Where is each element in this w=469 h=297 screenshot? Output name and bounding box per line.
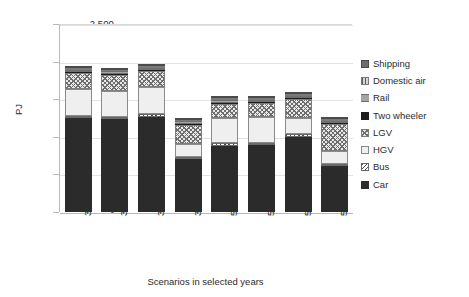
bar-segment-domestic-air[interactable]	[285, 94, 312, 96]
bar-segment-shipping[interactable]	[285, 92, 312, 94]
legend-item-label: Bus	[373, 162, 389, 172]
bar-segment-rail[interactable]	[321, 121, 348, 123]
bar-segment-domestic-air[interactable]	[138, 66, 165, 68]
gridline	[60, 63, 353, 64]
chart-figure: PJ -5001,0001,5002,0002,500 35-LC35-LC-E…	[0, 0, 469, 297]
bar-segment-hgv[interactable]	[138, 87, 165, 114]
x-axis-tick-label: 50-LC-LC	[302, 175, 313, 216]
bar-segment-bus[interactable]	[138, 114, 165, 117]
bar-segment-lgv[interactable]	[248, 103, 275, 117]
legend-swatch-icon	[361, 77, 369, 85]
bar-segment-two-wheeler[interactable]	[175, 124, 202, 125]
bar-segment-shipping[interactable]	[211, 96, 238, 98]
legend-item-label: HGV	[373, 145, 394, 155]
bar-segment-two-wheeler[interactable]	[321, 123, 348, 124]
bar-segment-shipping[interactable]	[101, 68, 128, 70]
legend-swatch-icon	[361, 94, 369, 102]
x-axis-tick-label: 35-LC-EA	[118, 174, 129, 216]
bar-segment-two-wheeler[interactable]	[211, 103, 238, 104]
bar-segment-lgv[interactable]	[211, 104, 238, 118]
y-axis-title: PJ	[13, 80, 24, 140]
legend-item[interactable]: Bus	[361, 159, 467, 176]
x-axis-tick-label: 35-LC-SO	[192, 173, 203, 216]
bar-segment-rail[interactable]	[138, 68, 165, 70]
bar-segment-hgv[interactable]	[65, 89, 92, 116]
bar-segment-rail[interactable]	[65, 70, 92, 72]
bar-segment-bus[interactable]	[65, 116, 92, 119]
bar-segment-hgv[interactable]	[285, 118, 312, 134]
bar-segment-lgv[interactable]	[101, 75, 128, 91]
bar-segment-bus[interactable]	[321, 164, 348, 167]
bar-segment-shipping[interactable]	[321, 117, 348, 119]
bar-segment-rail[interactable]	[211, 100, 238, 102]
bar-segment-rail[interactable]	[248, 100, 275, 102]
bar-segment-bus[interactable]	[211, 143, 238, 146]
bar-segment-hgv[interactable]	[321, 151, 348, 163]
legend-item-label: Car	[373, 180, 388, 190]
legend-item[interactable]: Domestic air	[361, 72, 467, 89]
legend: ShippingDomestic airRailTwo wheelerLGVHG…	[361, 55, 467, 193]
bar-segment-two-wheeler[interactable]	[65, 72, 92, 73]
bar-segment-domestic-air[interactable]	[321, 119, 348, 121]
legend-item-label: Shipping	[373, 59, 410, 69]
legend-item[interactable]: Two wheeler	[361, 107, 467, 124]
bar-segment-domestic-air[interactable]	[65, 68, 92, 70]
bar-segment-lgv[interactable]	[65, 73, 92, 89]
bar-segment-shipping[interactable]	[175, 118, 202, 120]
bar-segment-lgv[interactable]	[285, 99, 312, 118]
legend-item[interactable]: Shipping	[361, 55, 467, 72]
bar-segment-two-wheeler[interactable]	[101, 74, 128, 75]
legend-swatch-icon	[361, 181, 369, 189]
bar-segment-bus[interactable]	[175, 157, 202, 160]
bar-segment-bus[interactable]	[248, 143, 275, 146]
x-axis-tick-label: 35-LC	[82, 190, 93, 216]
bar-segment-hgv[interactable]	[101, 91, 128, 117]
legend-item-label: LGV	[373, 128, 392, 138]
bar-segment-bus[interactable]	[285, 134, 312, 137]
y-axis-tick-mark	[53, 212, 59, 213]
bar-segment-lgv[interactable]	[175, 125, 202, 144]
x-axis-tick-label: 35-LC-LC	[155, 175, 166, 216]
bar-segment-bus[interactable]	[101, 117, 128, 120]
bar-segment-domestic-air[interactable]	[175, 119, 202, 121]
bar-segment-rail[interactable]	[285, 96, 312, 98]
x-axis-tick-label: 50-LC-SO	[338, 173, 349, 216]
legend-item[interactable]: Car	[361, 176, 467, 193]
legend-swatch-icon	[361, 146, 369, 154]
legend-item[interactable]: HGV	[361, 141, 467, 158]
gridline	[60, 25, 353, 26]
bar-segment-hgv[interactable]	[248, 117, 275, 143]
bar-segment-hgv[interactable]	[175, 144, 202, 157]
legend-item-label: Two wheeler	[373, 111, 426, 121]
bar-segment-domestic-air[interactable]	[248, 98, 275, 100]
x-axis-title: Scenarios in selected years	[59, 276, 352, 287]
bar-segment-rail[interactable]	[175, 121, 202, 123]
x-axis-tick-label: 50-LC	[228, 190, 239, 216]
bar-segment-domestic-air[interactable]	[101, 69, 128, 71]
legend-item[interactable]: Rail	[361, 90, 467, 107]
bar-segment-shipping[interactable]	[248, 96, 275, 98]
bar-segment-two-wheeler[interactable]	[285, 98, 312, 99]
bar-segment-two-wheeler[interactable]	[248, 102, 275, 103]
bar-segment-lgv[interactable]	[138, 71, 165, 87]
bar-segment-hgv[interactable]	[211, 118, 238, 144]
legend-swatch-icon	[361, 112, 369, 120]
legend-swatch-icon	[361, 129, 369, 137]
bar-segment-two-wheeler[interactable]	[138, 70, 165, 71]
legend-swatch-icon	[361, 163, 369, 171]
bar-segment-shipping[interactable]	[65, 66, 92, 68]
legend-item-label: Domestic air	[373, 76, 426, 86]
legend-item-label: Rail	[373, 93, 389, 103]
x-axis-tick-label: 50-LC-EA	[265, 174, 276, 216]
bar-segment-shipping[interactable]	[138, 64, 165, 66]
bar-segment-rail[interactable]	[101, 71, 128, 73]
bar-segment-lgv[interactable]	[321, 124, 348, 151]
bar-segment-domestic-air[interactable]	[211, 98, 238, 100]
legend-item[interactable]: LGV	[361, 124, 467, 141]
legend-swatch-icon	[361, 60, 369, 68]
